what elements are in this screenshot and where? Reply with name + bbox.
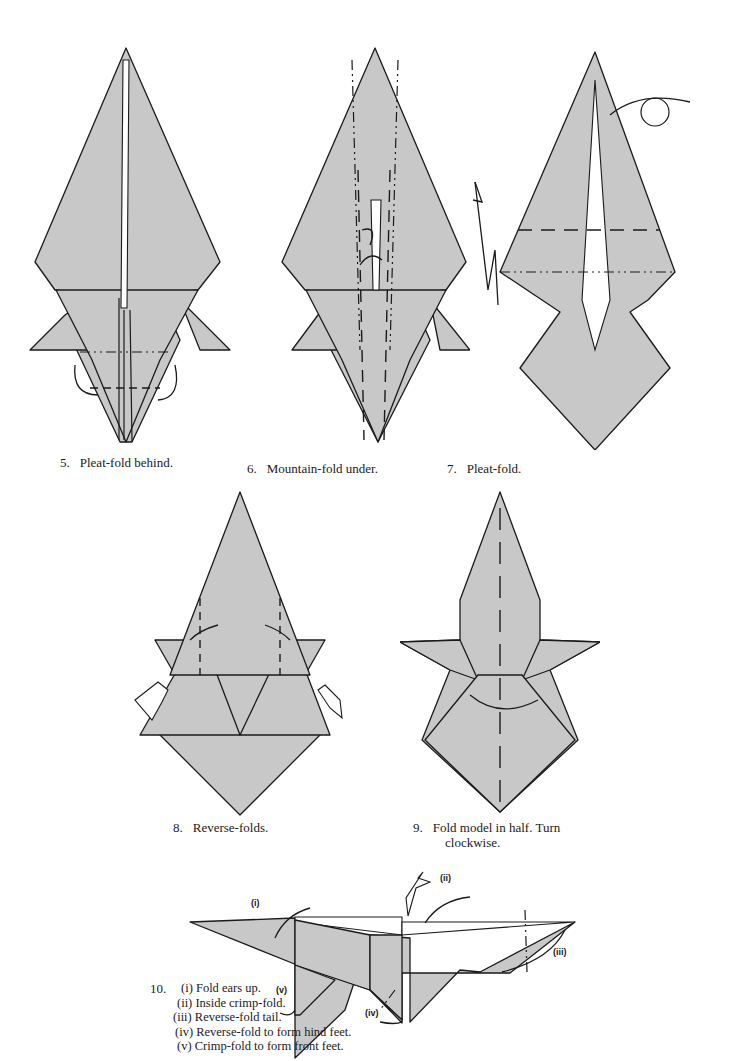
caption-step-9-line2: clockwise.	[445, 835, 500, 851]
label-iii: (iii)	[553, 947, 567, 957]
label-i: (i)	[251, 898, 260, 908]
label-iv: (iv)	[365, 1008, 379, 1018]
substep-i: (i) Fold ears up.	[172, 981, 351, 996]
step-10-number: 10.	[150, 981, 166, 997]
diagram-step-8	[130, 490, 350, 820]
step-caption: Mountain-fold under.	[267, 461, 378, 476]
diagram-step-7	[470, 20, 720, 450]
substep-iv: (iv) Reverse-fold to form hind feet.	[172, 1025, 351, 1040]
step-caption: Pleat-fold.	[467, 461, 522, 476]
caption-step-9: 9.Fold model in half. Turn	[413, 820, 560, 836]
step-caption: Reverse-folds.	[193, 820, 268, 835]
label-ii: (ii)	[440, 873, 451, 883]
step-10-substeps: (i) Fold ears up. (ii) Inside crimp-fold…	[172, 981, 351, 1054]
caption-step-7: 7.Pleat-fold.	[447, 461, 521, 477]
substep-iii: (iii) Reverse-fold tail.	[172, 1010, 351, 1025]
step-number: 7.	[447, 461, 457, 477]
diagram-step-6	[270, 20, 470, 450]
step-caption-line2: clockwise.	[445, 835, 500, 850]
step-number: 6.	[247, 461, 257, 477]
substep-v: (v) Crimp-fold to form front feet.	[172, 1039, 351, 1054]
substep-ii: (ii) Inside crimp-fold.	[172, 996, 351, 1011]
diagram-step-5	[20, 20, 240, 450]
step-number: 8.	[173, 820, 183, 836]
caption-step-5: 5.Pleat-fold behind.	[60, 455, 173, 471]
step-number: 9.	[413, 820, 423, 836]
step-caption: Pleat-fold behind.	[80, 455, 173, 470]
label-v: (v)	[276, 985, 287, 995]
caption-step-8: 8.Reverse-folds.	[173, 820, 268, 836]
diagram-step-9	[400, 490, 600, 820]
caption-step-6: 6.Mountain-fold under.	[247, 461, 378, 477]
step-number: 5.	[60, 455, 70, 471]
step-caption-line1: Fold model in half. Turn	[433, 820, 561, 835]
